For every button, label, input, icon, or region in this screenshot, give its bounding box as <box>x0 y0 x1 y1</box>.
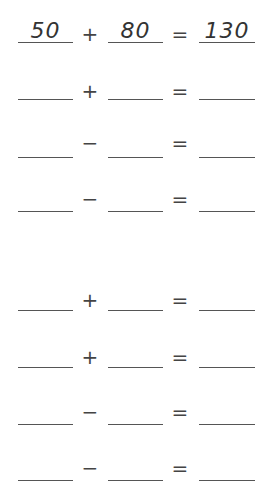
result-blank[interactable]: 130 <box>199 20 255 43</box>
operator: − <box>80 402 100 422</box>
second-operand-blank[interactable]: 80 <box>108 20 163 43</box>
equation-row-8: − = <box>0 458 259 483</box>
operator: + <box>80 24 100 44</box>
first-operand-blank[interactable] <box>18 458 73 481</box>
equals-sign: = <box>170 290 190 310</box>
operator: − <box>80 133 100 153</box>
equation-row-5: + = <box>0 288 259 328</box>
equals-sign: = <box>170 458 190 478</box>
operator: − <box>80 458 100 478</box>
equation-row-4: − = <box>0 189 259 229</box>
second-operand-blank[interactable] <box>108 458 163 481</box>
second-operand-blank[interactable] <box>108 77 163 100</box>
second-operand-blank[interactable] <box>108 288 163 311</box>
equation-row-2: + = <box>0 77 259 117</box>
operator: + <box>80 290 100 310</box>
equals-sign: = <box>170 133 190 153</box>
equals-sign: = <box>170 347 190 367</box>
result-blank[interactable] <box>199 458 255 481</box>
result-blank[interactable] <box>199 77 255 100</box>
first-operand-blank[interactable] <box>18 402 73 425</box>
first-operand-blank[interactable] <box>18 288 73 311</box>
operator: − <box>80 189 100 209</box>
first-operand-blank[interactable] <box>18 77 73 100</box>
second-operand-blank[interactable] <box>108 189 163 212</box>
equation-row-7: − = <box>0 402 259 442</box>
second-operand-blank[interactable] <box>108 402 163 425</box>
result-blank[interactable] <box>199 288 255 311</box>
equation-row-1: 50 + 80 = 130 <box>0 20 259 60</box>
operator: + <box>80 347 100 367</box>
equals-sign: = <box>170 402 190 422</box>
first-operand-blank[interactable] <box>18 345 73 368</box>
first-operand-blank[interactable] <box>18 135 73 158</box>
second-operand-blank[interactable] <box>108 135 163 158</box>
result-blank[interactable] <box>199 345 255 368</box>
equals-sign: = <box>170 24 190 44</box>
operator: + <box>80 81 100 101</box>
result-blank[interactable] <box>199 189 255 212</box>
result-blank[interactable] <box>199 135 255 158</box>
first-operand-blank[interactable]: 50 <box>18 20 73 43</box>
equals-sign: = <box>170 189 190 209</box>
first-operand-blank[interactable] <box>18 189 73 212</box>
equals-sign: = <box>170 81 190 101</box>
equation-row-6: + = <box>0 345 259 385</box>
second-operand-blank[interactable] <box>108 345 163 368</box>
result-blank[interactable] <box>199 402 255 425</box>
equation-row-3: − = <box>0 135 259 175</box>
